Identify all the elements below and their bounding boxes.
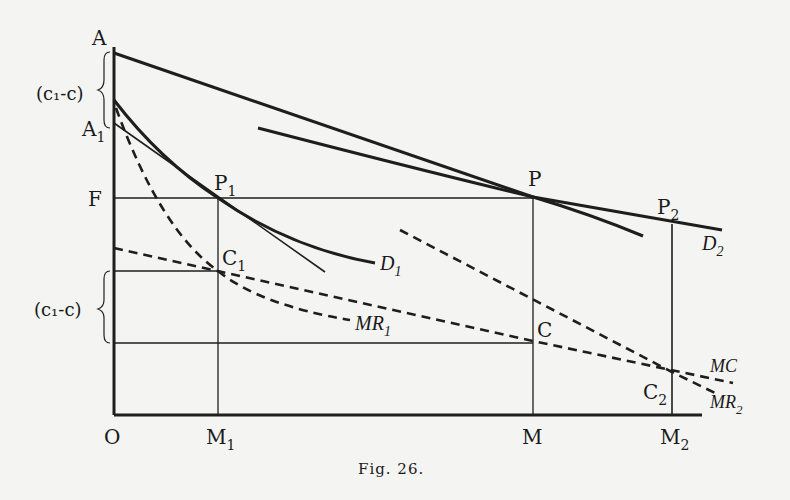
mr2-curve (400, 230, 715, 393)
label-m1: M1 (206, 425, 235, 453)
brace-upper (98, 52, 110, 128)
label-brace-upper: (c₁-c) (36, 83, 84, 104)
label-mc: MC (709, 356, 738, 376)
label-brace-lower: (c₁-c) (34, 299, 82, 320)
label-p: P (528, 167, 541, 191)
label-m: M (522, 425, 542, 449)
label-c2: C2 (643, 380, 667, 408)
label-p2: P2 (657, 195, 679, 223)
label-a: A (91, 26, 107, 50)
label-d2: D2 (701, 232, 723, 259)
label-m2: M2 (660, 425, 689, 453)
label-mr1: MR1 (354, 312, 391, 339)
label-p1: P1 (214, 171, 236, 199)
label-c: C (537, 318, 552, 342)
demand-line-a (114, 53, 533, 197)
label-d1: D1 (379, 252, 401, 279)
label-mr2: MR2 (709, 392, 743, 417)
demand-curve-d1 (114, 100, 375, 263)
brace-lower (98, 271, 110, 343)
label-a1: A1 (81, 117, 105, 145)
demand-curve-d2 (533, 197, 722, 230)
economics-diagram: A A1 F (c₁-c) (c₁-c) O M1 M M2 P1 P P2 C… (0, 0, 790, 500)
label-f: F (88, 187, 102, 211)
label-origin: O (104, 425, 120, 449)
label-c1: C1 (222, 246, 246, 274)
mr1-curve (116, 108, 350, 320)
mc-curve (114, 248, 733, 383)
tangent-curve-p (258, 128, 643, 236)
figure-caption: Fig. 26. (358, 460, 424, 478)
